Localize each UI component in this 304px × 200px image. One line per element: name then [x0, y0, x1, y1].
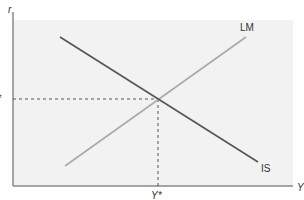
- lm-label: LM: [240, 22, 254, 33]
- is-lm-chart: r Y r* Y* LM IS: [0, 0, 304, 200]
- x-axis-label: Y: [297, 182, 304, 193]
- y-axis-label: r: [8, 4, 12, 15]
- r-star-label: r*: [0, 93, 2, 104]
- is-label: IS: [261, 163, 271, 174]
- y-star-label: Y*: [151, 190, 163, 200]
